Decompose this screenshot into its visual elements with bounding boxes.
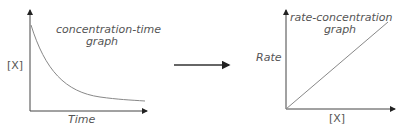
right-y-axis-label: Rate	[256, 52, 281, 64]
right-x-axis-label: [X]	[329, 113, 345, 125]
left-x-axis-label: Time	[68, 114, 95, 126]
right-graph-title-line2: graph	[290, 24, 390, 36]
left-y-axis-label: [X]	[7, 60, 23, 72]
right-graph-title: rate-concentration graph	[290, 12, 390, 36]
left-graph-title-line2: graph	[56, 36, 148, 48]
left-graph-title: concentration-time graph	[56, 24, 148, 48]
